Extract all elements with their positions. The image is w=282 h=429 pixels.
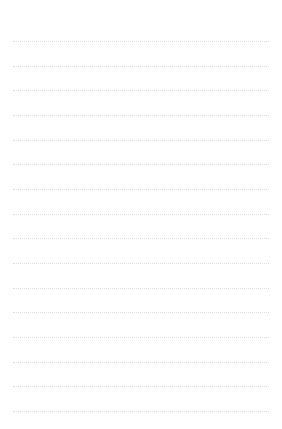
rule-line	[13, 411, 269, 412]
rule-line	[13, 386, 269, 387]
rule-line	[13, 337, 269, 338]
rule-line	[13, 263, 269, 264]
rule-line	[13, 90, 269, 91]
rule-line	[13, 214, 269, 215]
rule-line	[13, 362, 269, 363]
rule-line	[13, 140, 269, 141]
writing-area[interactable]	[0, 0, 282, 429]
rule-line	[13, 66, 269, 67]
rule-line	[13, 164, 269, 165]
rule-line	[13, 312, 269, 313]
rule-line	[13, 189, 269, 190]
lined-paper-page	[0, 0, 282, 429]
rule-line	[13, 238, 269, 239]
rule-line	[13, 41, 269, 42]
rule-line	[13, 288, 269, 289]
rule-line	[13, 115, 269, 116]
